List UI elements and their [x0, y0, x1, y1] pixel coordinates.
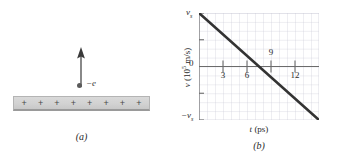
electron-symbol: e — [92, 78, 96, 88]
panel-a-electron-above-charged-sheet: + + + + + + + + −e (a) — [0, 0, 173, 158]
slab-charge-row: + + + + + + + + — [13, 96, 150, 111]
x-tick-label-3: 3 — [216, 70, 230, 80]
y-tick-label-vs: vs — [186, 7, 192, 19]
panel-b-caption: (b) — [199, 140, 319, 151]
y-axis-title: v (105 m/s) — [181, 26, 192, 110]
y-axis-exponent: 5 — [181, 66, 187, 69]
plus-charge-icon: + — [87, 99, 92, 108]
panel-b-velocity-time-graph: 3 6 9 12 vs 0 −vs v (105 m/s) t (ps) (b) — [173, 0, 345, 158]
x-tick-label-12: 12 — [288, 70, 302, 80]
minus-vs-subscript: s — [191, 116, 193, 122]
plus-charge-icon: + — [54, 99, 59, 108]
panel-a-caption: (a) — [0, 131, 163, 142]
plus-charge-icon: + — [103, 99, 108, 108]
y-axis-units-close: m/s) — [182, 48, 192, 66]
x-tick-label-6: 6 — [240, 70, 254, 80]
x-tick-label-9: 9 — [264, 47, 278, 57]
physics-figure: + + + + + + + + −e (a) — [0, 0, 345, 158]
plus-charge-icon: + — [38, 99, 43, 108]
electron-charge-label: −e — [86, 78, 96, 88]
plus-charge-icon: + — [22, 99, 27, 108]
y-axis-units-open: (10 — [182, 69, 192, 83]
y-tick-label-minus-vs: −vs — [181, 110, 193, 122]
plus-charge-icon: + — [120, 99, 125, 108]
plot-area: 3 6 9 12 — [199, 13, 319, 120]
electron-dot — [77, 83, 82, 88]
plus-charge-icon: + — [136, 99, 141, 108]
velocity-time-plot — [199, 13, 319, 120]
x-axis-units: (ps) — [252, 124, 268, 134]
plus-charge-icon: + — [71, 99, 76, 108]
vs-subscript: s — [190, 13, 192, 19]
x-axis-title: t (ps) — [199, 124, 319, 134]
y-axis-variable: v — [182, 83, 192, 87]
minus-vs-symbol: −v — [181, 110, 191, 120]
